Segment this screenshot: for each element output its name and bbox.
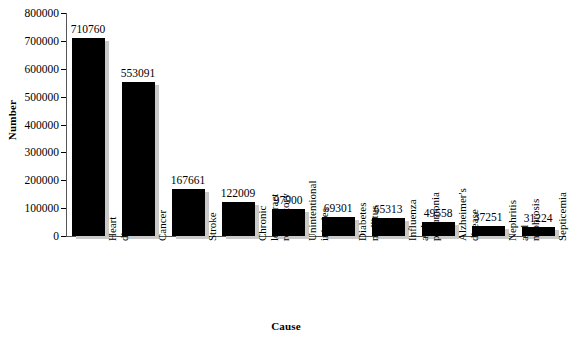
x-axis-tick-label: Diabetes mellitus bbox=[357, 169, 380, 241]
x-axis-tick-label: Influenza and pneumonia bbox=[407, 169, 442, 241]
bar-fill bbox=[172, 189, 205, 236]
y-axis-tick-label: 700000 bbox=[0, 34, 59, 48]
x-axis-tick-label: Chronic lower tract respiratory bbox=[257, 169, 292, 241]
x-axis-tick-label: Stroke bbox=[207, 169, 219, 241]
x-axis-tick-label: Cancer bbox=[157, 169, 169, 241]
bar-value-label: 553091 bbox=[121, 67, 156, 80]
y-axis-tick-label: 400000 bbox=[0, 118, 59, 132]
y-axis-tick-label: 800000 bbox=[0, 6, 59, 20]
bar-chart: Number 010000020000030000040000050000060… bbox=[0, 0, 572, 344]
y-axis-tick-label: 500000 bbox=[0, 90, 59, 104]
bar-value-label: 167661 bbox=[171, 174, 206, 187]
bar[interactable]: 167661 bbox=[172, 13, 205, 236]
bar-value-label: 710760 bbox=[71, 23, 106, 36]
bar-fill bbox=[72, 38, 105, 236]
bar-value-label: 122009 bbox=[221, 187, 256, 200]
x-axis-tick-label: Heart disease bbox=[107, 169, 130, 241]
x-axis-title: Cause bbox=[0, 320, 572, 332]
bar-fill bbox=[222, 202, 255, 236]
x-axis-tick-label: Septicemia bbox=[557, 169, 569, 241]
x-axis-tick-label: Nephritis and nephrosis bbox=[507, 169, 542, 241]
bar[interactable]: 710760 bbox=[72, 13, 105, 236]
bar[interactable]: 122009 bbox=[222, 13, 255, 236]
y-axis-tick-label: 200000 bbox=[0, 173, 59, 187]
y-axis-tick-label: 0 bbox=[0, 229, 59, 243]
x-axis-tick-label: Unintentional injuries bbox=[307, 169, 330, 241]
y-axis-tick-label: 600000 bbox=[0, 62, 59, 76]
y-axis-tick-label: 300000 bbox=[0, 145, 59, 159]
x-axis-tick-label: Alzheimer's disease bbox=[457, 169, 480, 241]
y-axis-tick-label: 100000 bbox=[0, 201, 59, 215]
